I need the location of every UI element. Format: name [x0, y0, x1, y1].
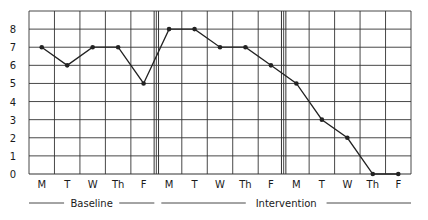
chart-grid: [29, 11, 411, 174]
x-tick-label: M: [165, 179, 174, 190]
x-tick-label: M: [37, 179, 46, 190]
x-tick-label: Th: [111, 179, 124, 190]
data-point: [167, 27, 172, 32]
data-point: [243, 45, 248, 50]
y-tick-label: 8: [10, 24, 16, 35]
y-tick-label: 0: [10, 169, 16, 180]
data-point: [192, 27, 197, 32]
x-tick-label: W: [88, 179, 98, 190]
data-point: [65, 63, 70, 68]
data-point: [116, 45, 121, 50]
y-tick-label: 1: [10, 151, 16, 162]
x-tick-label: T: [190, 179, 198, 190]
x-tick-label: T: [63, 179, 71, 190]
y-axis-tick-labels: 012345678: [10, 24, 16, 180]
y-tick-label: 7: [10, 42, 16, 53]
data-point: [371, 172, 376, 177]
data-point: [345, 135, 350, 140]
data-point: [218, 45, 223, 50]
x-tick-label: W: [342, 179, 352, 190]
x-tick-label: M: [292, 179, 301, 190]
y-tick-label: 2: [10, 133, 16, 144]
data-point: [90, 45, 95, 50]
x-tick-label: T: [318, 179, 326, 190]
x-tick-label: F: [141, 179, 147, 190]
x-axis-tick-labels: MTWThFMTWThFMTWThF: [37, 179, 401, 190]
data-point: [141, 81, 146, 86]
x-tick-label: W: [215, 179, 225, 190]
phase-change-lines: [154, 11, 286, 174]
x-tick-label: F: [268, 179, 274, 190]
x-tick-label: Th: [238, 179, 251, 190]
phase-label: Baseline: [70, 198, 112, 209]
data-point: [39, 45, 44, 50]
x-tick-label: F: [395, 179, 401, 190]
line-chart: 012345678 MTWThFMTWThFMTWThF BaselineInt…: [0, 0, 428, 220]
data-point: [320, 117, 325, 122]
y-tick-label: 6: [10, 60, 16, 71]
x-tick-label: Th: [366, 179, 379, 190]
phase-labels: BaselineIntervention: [29, 198, 411, 209]
y-tick-label: 5: [10, 78, 16, 89]
phase-label: Intervention: [256, 198, 317, 209]
data-point: [294, 81, 299, 86]
data-point: [269, 63, 274, 68]
data-point: [396, 172, 401, 177]
y-tick-label: 4: [10, 97, 16, 108]
y-tick-label: 3: [10, 115, 16, 126]
